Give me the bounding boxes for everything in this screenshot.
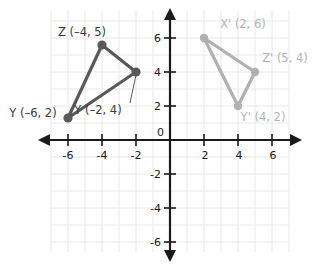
label-point-x-prime: X' (2, 6) — [220, 17, 266, 31]
label-point-y-lower: Y (–6, 2) — [8, 106, 56, 120]
origin-label: 0 — [157, 126, 164, 139]
label-point-z: Z (–4, 5) — [58, 25, 106, 39]
vertex-x-prime — [200, 34, 208, 42]
y-tick-label-neg6: -6 — [150, 236, 161, 249]
coordinate-plane-figure: -6 -4 -2 2 4 6 6 4 2 -2 -4 -6 0 — [0, 0, 312, 264]
vertex-y-lower — [63, 113, 72, 122]
label-point-y-upper: Y (–2, 4) — [73, 103, 121, 117]
x-tick-label-neg6: -6 — [63, 149, 74, 162]
x-tick-label-neg4: -4 — [97, 149, 108, 162]
y-tick-label-pos4: 4 — [154, 66, 161, 79]
y-tick-label-pos2: 2 — [154, 100, 161, 113]
x-tick-label-neg2: -2 — [131, 149, 142, 162]
coordinate-plane-svg: -6 -4 -2 2 4 6 6 4 2 -2 -4 -6 0 — [0, 0, 312, 264]
y-tick-label-neg2: -2 — [150, 168, 161, 181]
x-tick-label-pos4: 4 — [236, 149, 243, 162]
vertex-z — [97, 40, 106, 49]
vertex-z-prime — [251, 68, 259, 76]
y-tick-label-pos6: 6 — [154, 32, 161, 45]
vertex-y-prime — [234, 102, 242, 110]
label-point-y-prime: Y' (4, 2) — [240, 110, 286, 124]
x-tick-label-pos6: 6 — [270, 149, 277, 162]
y-tick-label-neg4: -4 — [150, 202, 161, 215]
label-point-z-prime: Z' (5, 4) — [262, 51, 308, 65]
x-tick-label-pos2: 2 — [202, 149, 209, 162]
